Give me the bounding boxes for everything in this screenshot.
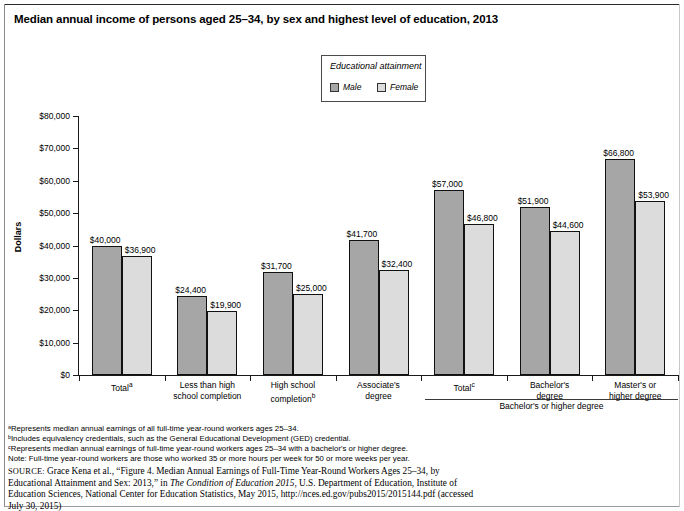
bar-female: $19,900 <box>207 311 237 375</box>
y-axis-tick <box>73 116 79 117</box>
bar-value-label: $32,400 <box>382 259 413 269</box>
bar-male: $24,400 <box>177 296 207 375</box>
footnote: Note: Full-time year-round workers are t… <box>8 454 528 464</box>
y-axis-tick-label: $0 <box>61 370 70 380</box>
footnote: ᵃRepresents median annual earnings of al… <box>8 424 528 434</box>
x-axis-category-label: Bachelor'sdegree <box>507 380 593 401</box>
bar-value-label: $36,900 <box>125 245 156 255</box>
bar-group: $51,900$44,600 <box>520 116 580 375</box>
bar-group: $57,000$46,800 <box>434 116 494 375</box>
y-axis-tick <box>73 310 79 311</box>
legend-item-female: Female <box>377 80 418 94</box>
x-axis-category-label: High schoolcompletionb <box>250 380 336 404</box>
bar-value-label: $44,600 <box>553 220 584 230</box>
plot-area: $0$10,000$20,000$30,000$40,000$50,000$60… <box>79 116 678 375</box>
bar-female: $46,800 <box>464 224 494 376</box>
x-axis-category-label: Totalc <box>421 380 507 393</box>
bar-value-label: $57,000 <box>432 179 463 189</box>
source-note: SOURCE: Grace Kena et al., “Figure 4. Me… <box>8 466 486 511</box>
bar-value-label: $24,400 <box>175 285 206 295</box>
bar-female: $36,900 <box>122 256 152 375</box>
bar-value-label: $25,000 <box>296 283 327 293</box>
figure-page: Median annual income of persons aged 25–… <box>0 0 684 511</box>
y-axis-tick-label: $20,000 <box>39 305 70 315</box>
frame-border-left <box>4 4 5 507</box>
x-axis-line <box>78 375 678 376</box>
bar-group: $66,800$53,900 <box>605 116 665 375</box>
x-axis-category-label: Master's orhigher degree <box>592 380 678 401</box>
y-axis-tick <box>73 278 79 279</box>
bar-male: $51,900 <box>520 207 550 375</box>
y-axis-tick <box>73 246 79 247</box>
bar-female: $32,400 <box>379 270 409 375</box>
bar-female: $44,600 <box>550 231 580 375</box>
legend-title: Educational attainment <box>330 61 422 71</box>
bar-group: $40,000$36,900 <box>92 116 152 375</box>
bar-value-label: $40,000 <box>90 235 121 245</box>
y-axis-tick-label: $60,000 <box>39 176 70 186</box>
bar-male: $31,700 <box>263 272 293 375</box>
figure-title: Median annual income of persons aged 25–… <box>14 13 664 25</box>
bar-value-label: $66,800 <box>603 148 634 158</box>
legend-swatch-female-icon <box>377 83 386 92</box>
x-axis-tick <box>678 375 679 381</box>
footnote: ᵇIncludes equivalency credentials, such … <box>8 434 528 444</box>
footnotes: ᵃRepresents median annual earnings of al… <box>8 424 528 464</box>
bar-value-label: $19,900 <box>210 300 241 310</box>
y-axis-tick-label: $70,000 <box>39 143 70 153</box>
x-axis-category-label: Totala <box>79 380 165 393</box>
legend-swatch-male-icon <box>330 83 339 92</box>
bar-group: $24,400$19,900 <box>177 116 237 375</box>
y-axis-tick-label: $80,000 <box>39 111 70 121</box>
bar-value-label: $53,900 <box>638 190 669 200</box>
bar-female: $25,000 <box>293 294 323 375</box>
bar-value-label: $51,900 <box>518 196 549 206</box>
x-axis-category-label: Associate'sdegree <box>336 380 422 401</box>
y-axis-tick-label: $30,000 <box>39 273 70 283</box>
frame-border-right <box>679 4 680 507</box>
y-axis-tick-label: $50,000 <box>39 208 70 218</box>
legend-items: Male Female <box>330 80 425 94</box>
y-axis-tick <box>73 343 79 344</box>
source-publication-title: The Condition of Education 2015 <box>170 478 294 488</box>
y-axis-tick <box>73 213 79 214</box>
frame-border-top <box>4 4 680 5</box>
x-axis-category-label: Less than highschool completion <box>165 380 251 401</box>
y-axis-tick <box>73 148 79 149</box>
bracket-label: Bachelor's or higher degree <box>425 401 678 411</box>
bar-female: $53,900 <box>635 201 665 376</box>
bar-male: $66,800 <box>605 159 635 375</box>
legend-label-female: Female <box>390 82 418 92</box>
chart-legend: Educational attainment Male Female <box>321 55 426 102</box>
bar-value-label: $46,800 <box>467 213 498 223</box>
bar-group: $31,700$25,000 <box>263 116 323 375</box>
y-axis-tick <box>73 181 79 182</box>
footnote: ᶜRepresents median annual earnings of fu… <box>8 444 528 454</box>
bar-value-label: $41,700 <box>347 229 378 239</box>
y-axis-tick-label: $40,000 <box>39 241 70 251</box>
bar-group: $41,700$32,400 <box>349 116 409 375</box>
legend-item-male: Male <box>330 80 361 94</box>
bar-value-label: $31,700 <box>261 261 292 271</box>
y-axis-tick-label: $10,000 <box>39 338 70 348</box>
source-prefix: SOURCE: <box>8 467 45 476</box>
bar-male: $57,000 <box>434 190 464 375</box>
bar-male: $40,000 <box>92 246 122 376</box>
legend-label-male: Male <box>343 82 361 92</box>
y-axis-title: Dollars <box>13 207 23 267</box>
bar-male: $41,700 <box>349 240 379 375</box>
